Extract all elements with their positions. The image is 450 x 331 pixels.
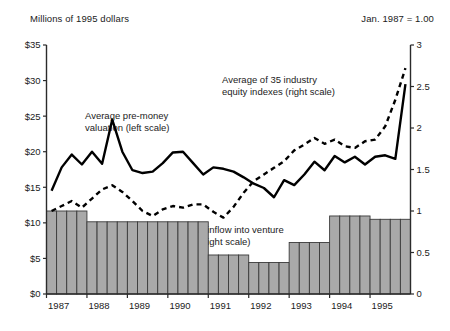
svg-text:$5: $5 bbox=[30, 253, 41, 264]
svg-text:1989: 1989 bbox=[129, 300, 150, 311]
svg-text:1988: 1988 bbox=[89, 300, 110, 311]
svg-text:2: 2 bbox=[417, 122, 422, 133]
svg-text:1.5: 1.5 bbox=[417, 164, 430, 175]
bars-venture-inflow bbox=[47, 211, 411, 294]
svg-text:$10: $10 bbox=[25, 217, 41, 228]
svg-text:$15: $15 bbox=[25, 182, 41, 193]
svg-text:$35: $35 bbox=[25, 39, 41, 50]
svg-text:1995: 1995 bbox=[372, 300, 393, 311]
svg-text:$30: $30 bbox=[25, 75, 41, 86]
svg-text:1990: 1990 bbox=[169, 300, 190, 311]
svg-text:1987: 1987 bbox=[48, 300, 69, 311]
svg-text:1994: 1994 bbox=[331, 300, 352, 311]
line-equity-indexes bbox=[52, 68, 406, 217]
svg-text:1: 1 bbox=[417, 205, 422, 216]
svg-text:1993: 1993 bbox=[291, 300, 312, 311]
svg-text:$0: $0 bbox=[30, 288, 41, 299]
svg-text:$25: $25 bbox=[25, 111, 41, 122]
svg-text:$20: $20 bbox=[25, 146, 41, 157]
svg-text:1992: 1992 bbox=[250, 300, 271, 311]
line-premoney-valuation bbox=[52, 84, 406, 197]
chart-figure: Millions of 1995 dollars Jan. 1987 = 1.0… bbox=[0, 0, 450, 331]
svg-text:3: 3 bbox=[417, 39, 422, 50]
svg-text:2.5: 2.5 bbox=[417, 81, 430, 92]
svg-text:0: 0 bbox=[417, 288, 422, 299]
chart-plot-area: $0$5$10$15$20$25$30$3500.511.522.5319871… bbox=[0, 0, 450, 331]
svg-text:0.5: 0.5 bbox=[417, 247, 430, 258]
svg-text:1991: 1991 bbox=[210, 300, 231, 311]
